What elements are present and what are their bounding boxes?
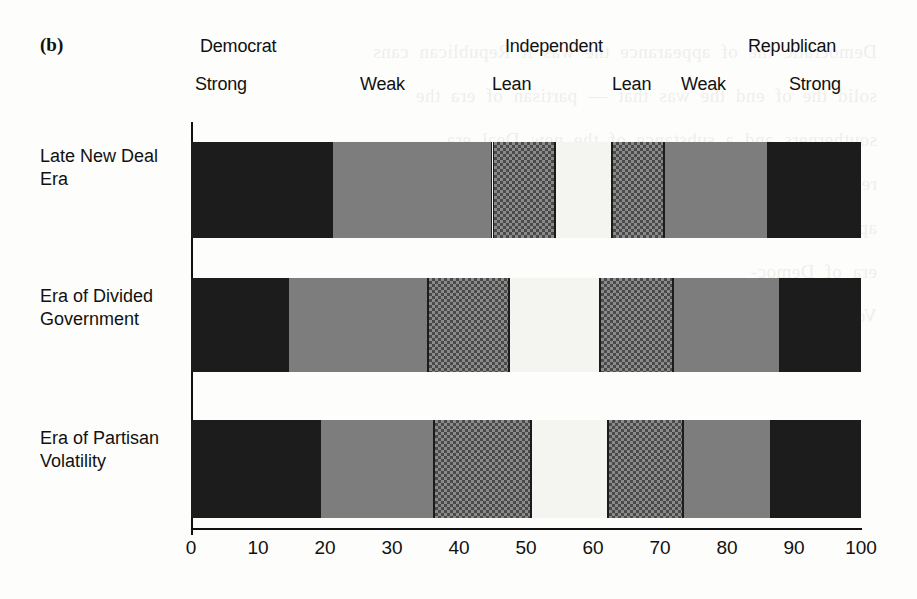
strength-label-republican-strong: Strong [789,74,841,95]
category-label-2: Era of Divided Government [40,285,153,331]
strength-label-democrat-strong: Strong [195,74,247,95]
strength-label-republican-weak: Weak [681,74,726,95]
group-label-independent: Independent [505,36,603,57]
bar-segment-lean-republican-row-1 [612,142,664,238]
bar-segment-lean-republican-row-3 [608,420,683,518]
panel-letter: (b) [40,34,63,56]
x-tick-label-50: 50 [515,537,536,559]
x-tick-label-80: 80 [716,537,737,559]
bar-segment-lean-democrat-row-3 [434,420,530,518]
bar-row-1 [191,142,861,238]
strength-label-democrat-weak: Weak [360,74,405,95]
x-tick-label-70: 70 [649,537,670,559]
bar-segment-weak-republican-row-3 [683,420,771,518]
category-label-3: Era of Partisan Volatility [40,427,159,473]
bar-segment-lean-democrat-row-1 [493,142,555,238]
bar-row-2 [191,278,861,372]
bar-segment-strong-democrat-row-2 [191,278,288,372]
bar-segment-strong-republican-row-1 [768,142,861,238]
x-tick-label-30: 30 [381,537,402,559]
figure-panel-b: (b) DemocratIndependentRepublicanStrongW… [0,0,917,599]
x-tick-label-0: 0 [186,537,197,559]
x-tick-label-40: 40 [448,537,469,559]
bar-segment-strong-democrat-row-3 [191,420,320,518]
bar-segment-weak-democrat-row-1 [332,142,493,238]
strength-label-republican-lean: Lean [612,74,651,95]
x-tick-label-20: 20 [314,537,335,559]
x-tick-0 [191,528,193,535]
x-tick-label-60: 60 [582,537,603,559]
bar-segment-independent-row-3 [531,420,608,518]
x-tick-label-100: 100 [845,537,877,559]
x-axis-line [191,528,862,530]
x-tick-label-90: 90 [783,537,804,559]
x-tick-label-10: 10 [247,537,268,559]
bar-segment-independent-row-1 [555,142,612,238]
bar-segment-lean-republican-row-2 [600,278,674,372]
bar-segment-strong-republican-row-2 [780,278,861,372]
strength-label-democrat-lean: Lean [492,74,531,95]
bar-segment-weak-republican-row-1 [664,142,768,238]
bar-segment-weak-republican-row-2 [673,278,780,372]
group-label-democrat: Democrat [200,36,276,57]
bar-segment-weak-democrat-row-3 [320,420,434,518]
plot-area: 0102030405060708090100 [191,122,861,530]
bar-segment-lean-democrat-row-2 [428,278,509,372]
bar-row-3 [191,420,861,518]
bar-segment-strong-democrat-row-1 [191,142,332,238]
bar-segment-strong-republican-row-3 [771,420,861,518]
bar-segment-weak-democrat-row-2 [288,278,428,372]
category-label-1: Late New Deal Era [40,145,158,191]
bar-segment-independent-row-2 [509,278,599,372]
group-label-republican: Republican [748,36,836,57]
